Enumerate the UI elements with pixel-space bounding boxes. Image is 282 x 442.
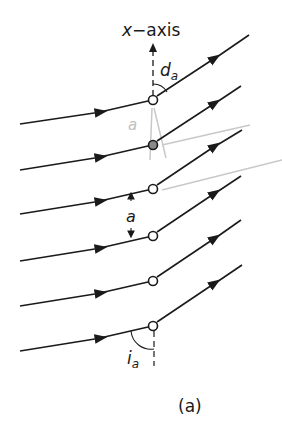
atom-6	[149, 322, 158, 331]
atoms	[149, 96, 158, 331]
incidence-angle-label: ia	[127, 348, 139, 371]
scattering-diagram: a xx−axis−axis da	[0, 0, 282, 442]
x-axis	[149, 43, 157, 96]
spacing-label: a	[126, 207, 136, 226]
trajectories	[20, 35, 249, 351]
deflection-angle-label: da	[160, 60, 178, 83]
caption: (a)	[178, 396, 202, 416]
atom-5	[149, 277, 158, 286]
incidence-angle-arc	[131, 331, 154, 349]
atom-4	[149, 232, 158, 241]
atom-3	[149, 185, 158, 194]
atom-1	[149, 96, 158, 105]
faint-label: a	[128, 116, 137, 134]
atom-2	[149, 141, 158, 150]
axis-arrow-icon	[149, 43, 157, 52]
axis-label: xx−axis−axis	[121, 20, 181, 40]
faint-marks	[150, 108, 282, 190]
